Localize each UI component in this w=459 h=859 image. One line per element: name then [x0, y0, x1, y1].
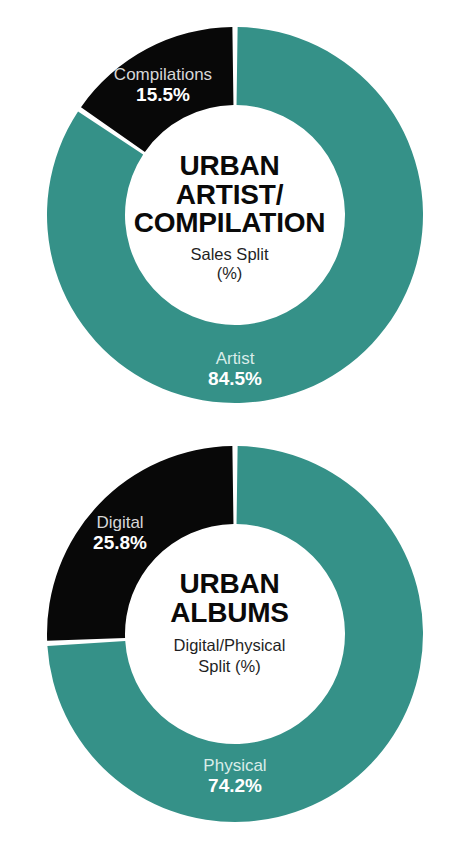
donut-chart-urban-albums [0, 430, 459, 859]
donut-chart-1-svg [0, 0, 459, 430]
infographic-page: Compilations 15.5% Artist 84.5% URBAN AR… [0, 0, 459, 859]
donut-chart-urban-artist-compilation: Compilations 15.5% Artist 84.5% URBAN AR… [0, 0, 459, 430]
donut-chart-1-slices [47, 27, 423, 403]
donut-slice-digital[interactable] [47, 446, 233, 641]
donut-chart-2-slices [47, 446, 423, 822]
donut-chart-2-svg [0, 430, 459, 859]
